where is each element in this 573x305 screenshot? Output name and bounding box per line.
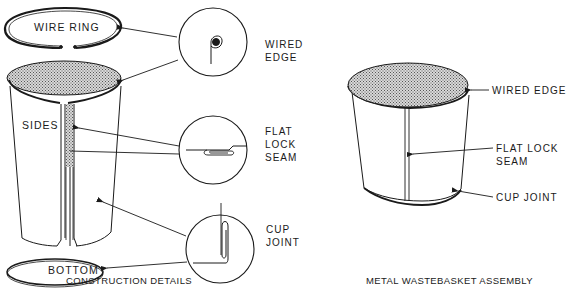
sides-label: SIDES — [22, 119, 59, 132]
wired-edge-detail — [179, 8, 247, 76]
assembly-cup-joint-label: CUP JOINT — [496, 191, 558, 204]
wire-ring-label: WIRE RING — [34, 21, 100, 34]
assembly-flat-lock-label: FLAT LOCK — [496, 142, 559, 155]
construction-caption: CONSTRUCTION DETAILS — [66, 275, 192, 286]
sides-part — [7, 61, 121, 246]
assembly-seam-label: SEAM — [496, 155, 528, 168]
assembled-wastebasket — [348, 63, 469, 205]
assembly-wired-edge-label: WIRED EDGE — [492, 84, 566, 97]
flat-lock-seam-detail — [179, 116, 247, 184]
cup-joint-detail — [186, 203, 254, 283]
assembly-caption: METAL WASTEBASKET ASSEMBLY — [366, 275, 533, 286]
